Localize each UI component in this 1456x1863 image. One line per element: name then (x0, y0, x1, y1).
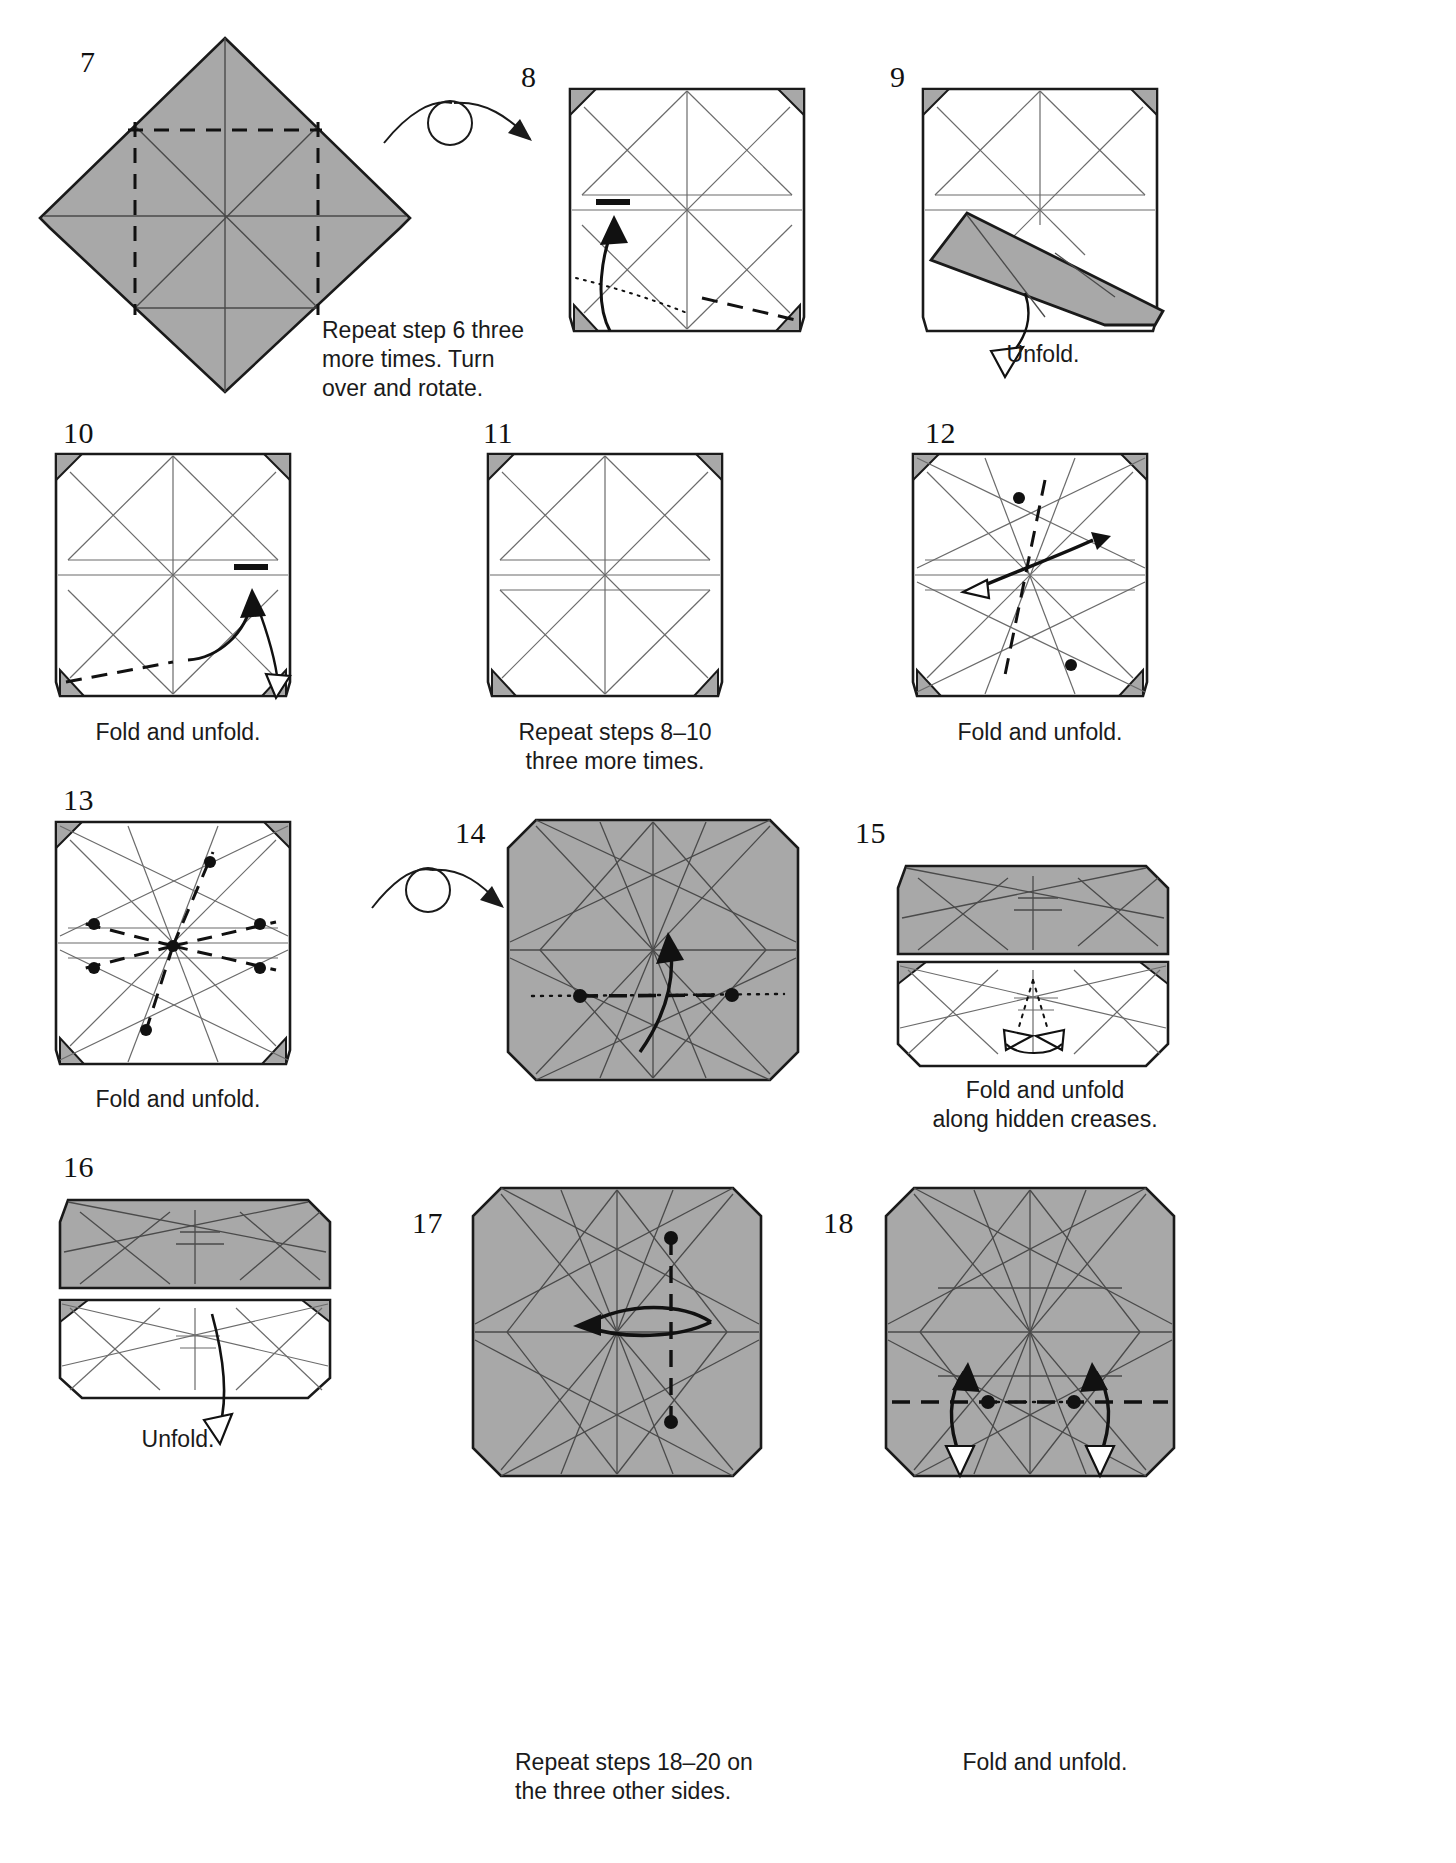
step-9-figure (905, 85, 1180, 345)
turn-over-symbol-14 (370, 862, 520, 922)
step-11-figure (470, 450, 745, 710)
step-16-figure (40, 1192, 350, 1442)
step-18-figure (878, 1180, 1198, 1490)
step-8-figure (552, 85, 822, 345)
step-15-figure (878, 858, 1178, 1078)
step-number-14: 14 (455, 818, 486, 848)
step-number-17: 17 (412, 1208, 443, 1238)
step-number-12: 12 (925, 418, 956, 448)
step-16-caption: Unfold. (78, 1425, 278, 1454)
step-number-8: 8 (521, 62, 537, 92)
step-11-caption: Repeat steps 8–10 three more times. (500, 718, 730, 776)
step-number-18: 18 (823, 1208, 854, 1238)
step-17-caption: Repeat steps 18–20 on the three other si… (515, 1748, 795, 1806)
step-number-9: 9 (890, 62, 906, 92)
step-14-figure (500, 812, 820, 1092)
step-number-10: 10 (63, 418, 94, 448)
step-number-13: 13 (63, 785, 94, 815)
step-13-figure (38, 818, 318, 1078)
step-10-figure (38, 450, 313, 710)
step-number-15: 15 (855, 818, 886, 848)
step-7-caption: Repeat step 6 three more times. Turn ove… (322, 316, 532, 403)
step-15-caption: Fold and unfold along hidden creases. (900, 1076, 1190, 1134)
step-10-caption: Fold and unfold. (78, 718, 278, 747)
step-13-caption: Fold and unfold. (78, 1085, 278, 1114)
step-17-figure (465, 1180, 785, 1490)
step-12-caption: Fold and unfold. (930, 718, 1150, 747)
step-9-caption: Unfold. (958, 340, 1128, 369)
step-12-figure (895, 450, 1185, 710)
step-number-16: 16 (63, 1152, 94, 1182)
step-number-11: 11 (483, 418, 513, 448)
step-18-caption: Fold and unfold. (930, 1748, 1160, 1777)
origami-diagram-page: 7 Repeat ste (0, 0, 1456, 1863)
turn-over-symbol-8 (380, 95, 550, 155)
